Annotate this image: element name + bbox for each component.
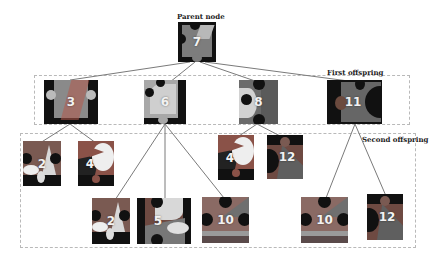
tile-first-3: 3 [44,80,98,124]
tile-number: 8 [239,95,278,109]
tile-second-3-4: 4 [78,141,114,186]
tile-number: 4 [78,157,102,171]
tile-second-6-2: 2 [92,198,130,244]
tile-second-6-5: 5 [137,198,191,244]
tile-first-6: 6 [144,80,186,124]
tile-parent-7: 7 [178,22,216,62]
tile-number: 2 [23,157,61,171]
tile-second-11-10: 10 [301,197,348,243]
tile-first-8: 8 [239,80,278,124]
tile-number: 5 [137,214,179,228]
tile-number: 10 [202,213,249,227]
tile-number: 4 [218,151,242,165]
tile-number: 10 [301,213,348,227]
tile-number: 11 [335,95,371,109]
tile-first-11: 11 [327,80,382,124]
tile-second-8-12: 12 [267,135,303,179]
tile-second-3-2: 2 [23,141,61,186]
tile-number: 2 [92,214,130,228]
tile-number: 6 [144,95,186,109]
tile-second-8-4: 4 [218,135,254,180]
tile-number: 12 [271,150,303,164]
tile-number: 12 [371,210,403,224]
tile-number: 3 [44,95,98,109]
tile-number: 7 [178,35,216,49]
tile-second-6-10: 10 [202,197,249,243]
tile-second-11-12: 12 [367,194,403,240]
